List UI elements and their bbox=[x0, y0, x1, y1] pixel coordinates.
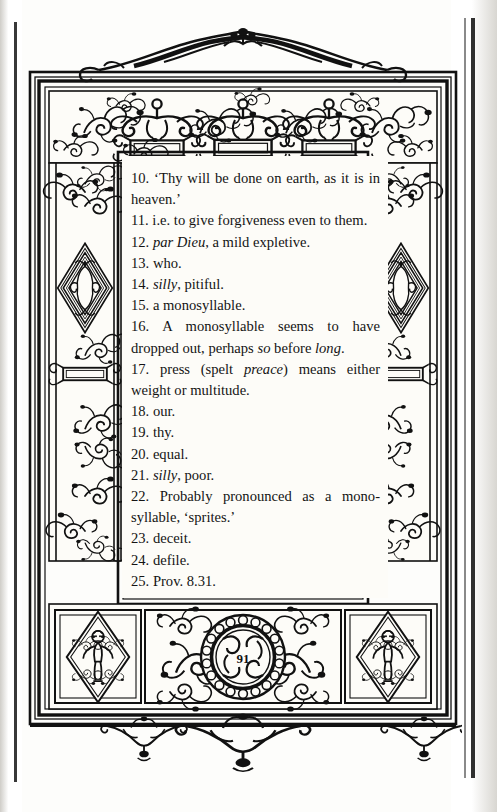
note-item: 14. silly, pitiful. bbox=[131, 274, 380, 295]
note-item: 13. who. bbox=[131, 253, 380, 274]
note-item: 24. defile. bbox=[131, 550, 380, 571]
note-item: 11. i.e. to give forgiveness even to the… bbox=[131, 210, 380, 231]
note-item: 15. a monosyllable. bbox=[131, 295, 380, 316]
scanned-book-page: 91 10. ‘Thy will be done on earth, as it… bbox=[0, 0, 497, 812]
notes-list: 10. ‘Thy will be done on earth, as it is… bbox=[131, 168, 380, 592]
bottom-ornament-band bbox=[49, 604, 437, 712]
note-item: 20. equal. bbox=[131, 444, 380, 465]
page-number-roundel bbox=[201, 615, 285, 699]
bottom-pendant-ornaments bbox=[30, 713, 462, 771]
note-item: 16. A monosyllable seems to have dropped… bbox=[131, 316, 380, 358]
scan-shadow-left-edge bbox=[0, 0, 22, 812]
note-item: 18. our. bbox=[131, 401, 380, 422]
note-item: 19. thy. bbox=[131, 422, 380, 443]
note-item: 12. par Dieu, a mild expletive. bbox=[131, 232, 380, 253]
note-item: 22. Probably pronounced as a mono-syllab… bbox=[131, 486, 380, 528]
note-item: 10. ‘Thy will be done on earth, as it is… bbox=[131, 168, 380, 210]
note-item: 23. deceit. bbox=[131, 528, 380, 549]
note-item: 17. press (spelt preace) means either we… bbox=[131, 359, 380, 401]
note-item: 25. Prov. 8.31. bbox=[131, 571, 380, 592]
note-item: 21. silly, poor. bbox=[131, 465, 380, 486]
notes-text-panel: 10. ‘Thy will be done on earth, as it is… bbox=[122, 156, 388, 598]
